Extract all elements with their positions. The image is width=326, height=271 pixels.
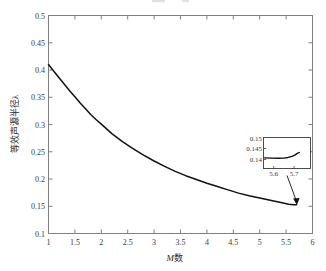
y-tick-label: 0.45: [31, 39, 45, 48]
inset-x-tick-label: 5.7: [290, 170, 299, 178]
x-tick-label: 3: [152, 238, 156, 247]
y-tick-label: 0.2: [35, 175, 45, 184]
x-axis-title: M 数: [166, 252, 184, 263]
y-axis-title: 等效声源半径λ: [9, 94, 20, 153]
scan-artifact-top: [152, 0, 189, 2]
x-tick-label: 2.5: [123, 238, 133, 247]
x-tick-label: 1.5: [70, 238, 80, 247]
x-tick-label: 2: [99, 238, 103, 247]
x-tick-label: 1: [47, 238, 51, 247]
y-axis: 0.5 0.45 0.4 0.35 0.3 0.25 0.2: [31, 12, 313, 239]
x-tick-label: 3.5: [176, 238, 186, 247]
inset-y-tick-label: 0.15: [250, 135, 263, 143]
x-axis-title-cjk: 数: [174, 252, 183, 263]
y-tick-label: 0.3: [35, 121, 45, 130]
inset-leader-arrow: [287, 176, 300, 205]
y-tick-label: 0.1: [35, 230, 45, 239]
figure-container: 0.5 0.45 0.4 0.35 0.3 0.25 0.2: [0, 0, 326, 271]
y-axis-title-text: 等效声源半径λ: [9, 94, 20, 153]
x-tick-label: 5: [258, 238, 262, 247]
x-tick-label: 6: [311, 238, 315, 247]
x-axis: 1 1.5 2 2.5 3 3.5 4: [47, 16, 315, 247]
inset-y-tick-label: 0.14: [250, 156, 263, 164]
inset-x-tick-label: 5.6: [269, 170, 278, 178]
chart-canvas: 0.5 0.45 0.4 0.35 0.3 0.25 0.2: [0, 0, 326, 271]
x-tick-label: 4: [205, 238, 209, 247]
y-tick-label: 0.35: [31, 93, 45, 102]
inset-y-tick-label: 0.145: [246, 145, 262, 153]
y-tick-label: 0.5: [35, 12, 45, 21]
x-tick-label: 5.5: [281, 238, 291, 247]
x-tick-label: 4.5: [228, 238, 238, 247]
inset-plot: 0.15 0.145 0.14 5.6 5.7: [246, 135, 310, 179]
y-tick-label: 0.4: [35, 66, 45, 75]
y-tick-label: 0.15: [31, 202, 45, 211]
y-tick-label: 0.25: [31, 148, 45, 157]
